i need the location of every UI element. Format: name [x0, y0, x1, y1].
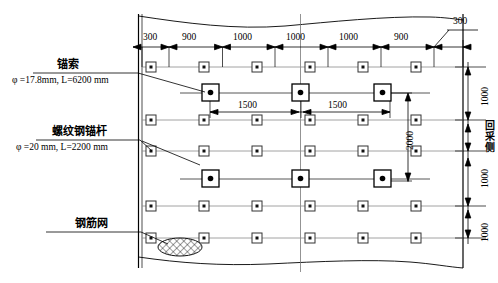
dim-top-5: 1000	[339, 33, 358, 43]
dim-top-6: 900	[394, 33, 408, 43]
dim-bolt-row-spacing: 2000	[406, 131, 416, 150]
dim-top-edge: 300	[453, 17, 467, 27]
dim-cable-spacing-left: 1500	[238, 101, 257, 111]
dim-right-3: 1000	[481, 223, 491, 242]
dim-top-3: 1000	[233, 33, 252, 43]
steel-mesh-label: 钢筋网	[75, 218, 108, 229]
anchor-cable-label: 锚索	[57, 59, 79, 70]
dim-top-4: 1000	[286, 33, 305, 43]
cable-row-lines	[180, 93, 430, 179]
rebar-bolt-label: 螺纹钢锚杆	[52, 126, 107, 137]
engineering-drawing-root: 300 900 1000 1000 1000 900 300 1000 1000…	[0, 0, 498, 283]
mining-side-char-1: 回	[484, 120, 496, 131]
dim-right-1: 1000	[481, 87, 491, 106]
rebar-bolt-spec: φ =20 mm, L=2200 mm	[16, 143, 108, 153]
mining-side-char-3: 侧	[484, 142, 496, 153]
anchor-cable-markers	[202, 84, 391, 187]
mining-side-char-2: 采	[484, 131, 496, 142]
mining-side-label: 回 采 侧	[484, 120, 496, 153]
dim-top-2: 900	[182, 33, 196, 43]
anchor-cable-spec: φ =17.8mm, L=6200 mm	[12, 76, 109, 86]
dim-right-2: 1000	[481, 169, 491, 188]
dim-cable-spacing-right: 1500	[328, 101, 347, 111]
dim-top-1: 300	[143, 33, 157, 43]
steel-mesh-symbol	[158, 238, 202, 256]
leader-lines	[33, 73, 205, 244]
